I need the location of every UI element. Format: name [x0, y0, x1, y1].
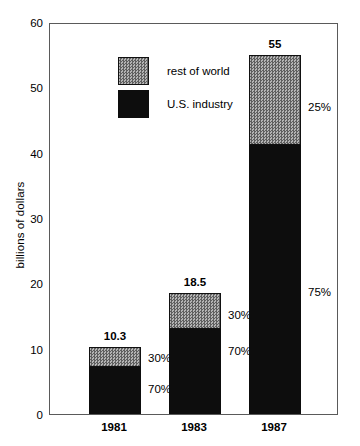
- y-axis-tick-label-10: 10: [0, 344, 43, 356]
- bar-1981-pct-us-industry: 70%: [148, 383, 171, 395]
- y-axis-title: billions of dollars: [14, 125, 26, 325]
- legend-swatch-rest-of-world: [118, 57, 149, 85]
- bar-1983-segment-rest-of-world: [169, 293, 221, 329]
- bar-1981: 10.3 30% 70%: [89, 347, 141, 414]
- bar-1987-segment-rest-of-world: [249, 55, 301, 145]
- bar-1983-pct-rest-of-world: 30%: [228, 309, 251, 321]
- bar-1983-pct-us-industry: 70%: [228, 345, 251, 357]
- legend-swatch-us-industry: [118, 90, 149, 118]
- bar-1987-pct-rest-of-world: 25%: [308, 101, 331, 113]
- bar-1983-total-label: 18.5: [150, 276, 240, 288]
- bar-1987-pct-us-industry: 75%: [308, 286, 331, 298]
- bar-1983: 18.5 30% 70%: [169, 293, 221, 414]
- legend-item-rest-of-world: rest of world: [118, 54, 233, 87]
- bar-1987: 55 25% 75%: [249, 55, 301, 414]
- legend: rest of world U.S. industry: [118, 54, 233, 120]
- bar-1981-pct-rest-of-world: 30%: [148, 352, 171, 364]
- bar-1981-segment-rest-of-world: [89, 347, 141, 367]
- stacked-bar-chart: 60 50 40 30 20 10 0 billions of dollars: [0, 0, 360, 446]
- x-axis-label-1983: 1983: [149, 421, 239, 433]
- bar-1987-segment-us-industry: [249, 145, 301, 415]
- bar-1987-total-label: 55: [230, 38, 320, 50]
- legend-item-us-industry: U.S. industry: [118, 87, 233, 120]
- bar-1983-segment-us-industry: [169, 329, 221, 414]
- y-axis-tick-label-60: 60: [0, 17, 43, 29]
- legend-label-rest-of-world: rest of world: [167, 65, 230, 77]
- legend-label-us-industry: U.S. industry: [167, 98, 233, 110]
- x-axis-label-1987: 1987: [229, 421, 319, 433]
- y-axis-tick-label-50: 50: [0, 82, 43, 94]
- bar-1981-total-label: 10.3: [70, 330, 160, 342]
- y-axis-tick-label-0: 0: [0, 409, 43, 421]
- plot-area: rest of world U.S. industry 10.3 30% 70%…: [49, 23, 338, 415]
- bar-1981-segment-us-industry: [89, 367, 141, 414]
- x-axis-label-1981: 1981: [69, 421, 159, 433]
